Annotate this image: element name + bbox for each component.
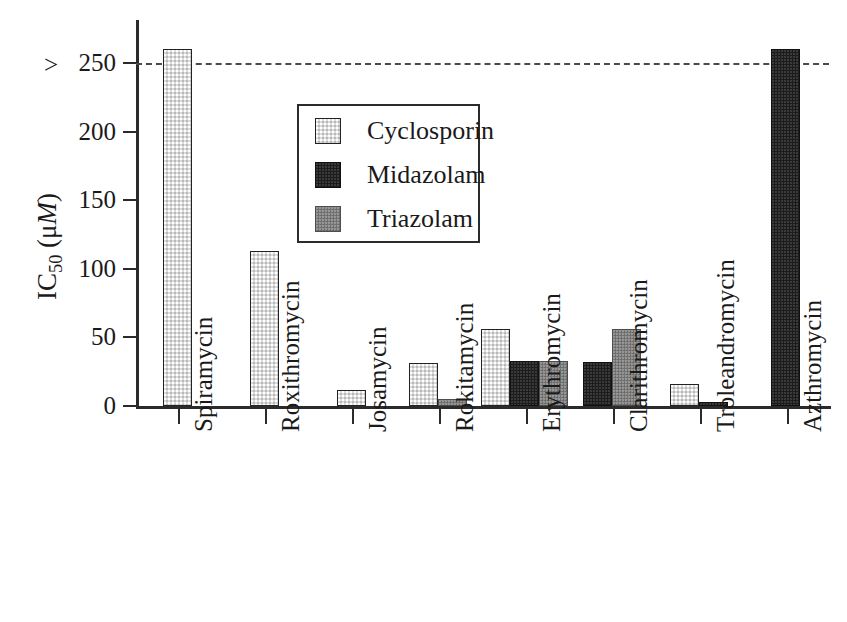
y-axis-line xyxy=(136,20,139,408)
x-tick-label: Azthromycin xyxy=(800,300,825,432)
y-tick-mark xyxy=(123,199,137,201)
bar-erythromycin-cyclosporin xyxy=(481,329,510,406)
y-tick-mark xyxy=(123,131,137,133)
y-axis-title-unit-close: ) xyxy=(32,193,62,202)
threshold-line xyxy=(136,63,829,65)
y-tick-label: 50 xyxy=(28,324,116,349)
x-tick-mark xyxy=(352,408,354,424)
legend-swatch-midazolam xyxy=(315,162,341,188)
y-tick-mark xyxy=(123,62,137,64)
y-axis-title-unit-italic: M xyxy=(32,202,62,225)
greater-than-marker: > xyxy=(44,52,58,77)
x-tick-label: Roxithromycin xyxy=(278,281,303,432)
bar-roxithromycin-cyclosporin xyxy=(250,251,279,406)
legend-label-cyclosporin: Cyclosporin xyxy=(367,118,494,144)
x-tick-label: Rokitamycin xyxy=(452,303,477,432)
x-tick-label: Josamycin xyxy=(365,326,390,432)
y-tick-mark xyxy=(123,268,137,270)
y-tick-label: 0 xyxy=(28,393,116,418)
x-tick-label: Troleandromycin xyxy=(713,259,738,432)
y-axis-title-unit-open: (μ xyxy=(32,224,62,254)
y-axis-title-prefix: IC xyxy=(32,273,62,300)
legend-entry-midazolam: Midazolam xyxy=(315,162,485,188)
x-tick-mark xyxy=(787,408,789,424)
legend-entry-cyclosporin: Cyclosporin xyxy=(315,118,494,144)
y-tick-mark xyxy=(123,336,137,338)
x-tick-label: Clarithromycin xyxy=(626,279,651,432)
x-tick-mark xyxy=(613,408,615,424)
bar-spiramycin-cyclosporin xyxy=(163,49,192,406)
chart-figure: 050100150200250SpiramycinRoxithromycinJo… xyxy=(0,0,847,622)
legend-swatch-cyclosporin xyxy=(315,118,341,144)
x-tick-mark xyxy=(265,408,267,424)
bar-azthromycin-midazolam xyxy=(771,49,800,406)
x-tick-mark xyxy=(526,408,528,424)
y-tick-label: 200 xyxy=(28,119,116,144)
x-tick-mark xyxy=(700,408,702,424)
y-tick-label: 250 xyxy=(28,50,116,75)
y-tick-mark xyxy=(123,405,137,407)
legend-swatch-triazolam xyxy=(315,206,341,232)
chart-legend: Cyclosporin Midazolam Triazolam xyxy=(297,104,480,243)
y-axis-title: IC50 (μM) xyxy=(34,193,61,300)
x-tick-label: Erythromycin xyxy=(539,293,564,432)
legend-label-triazolam: Triazolam xyxy=(367,206,473,232)
bar-troleandromycin-cyclosporin xyxy=(670,384,699,406)
x-tick-mark xyxy=(439,408,441,424)
bar-josamycin-cyclosporin xyxy=(337,390,366,406)
legend-label-midazolam: Midazolam xyxy=(367,162,485,188)
legend-entry-triazolam: Triazolam xyxy=(315,206,473,232)
x-tick-mark xyxy=(178,408,180,424)
bar-clarithromycin-midazolam xyxy=(583,362,612,406)
y-axis-title-subscript: 50 xyxy=(46,255,66,273)
bar-rokitamycin-cyclosporin xyxy=(409,363,438,406)
x-tick-label: Spiramycin xyxy=(191,317,216,432)
bar-erythromycin-midazolam xyxy=(510,361,539,406)
